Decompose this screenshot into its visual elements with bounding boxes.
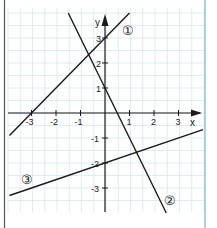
grid	[8, 8, 204, 212]
y-tick-label: 2	[96, 59, 101, 69]
x-axis-label: x	[190, 117, 195, 128]
y-axis-label: y	[95, 17, 100, 28]
chart-svg: -3-2-1123-3-2-1123 x y ① ② ③	[0, 0, 217, 228]
x-axis-arrow-icon	[191, 110, 202, 117]
x-tick-label: 1	[127, 117, 132, 127]
x-tick-label: 3	[176, 117, 181, 127]
y-tick-label: -3	[91, 184, 99, 194]
line-2-label: ②	[164, 193, 176, 208]
coordinate-plane-figure: -3-2-1123-3-2-1123 x y ① ② ③	[0, 0, 217, 228]
x-tick-label: 2	[151, 117, 156, 127]
y-axis-arrow-icon	[102, 14, 109, 26]
x-tick-label: -2	[50, 117, 58, 127]
line-3-label: ③	[21, 172, 33, 187]
x-tick-label: -1	[75, 117, 83, 127]
y-tick-label: 1	[96, 84, 101, 94]
line-1-label: ①	[122, 23, 134, 38]
y-tick-label: -1	[91, 134, 99, 144]
